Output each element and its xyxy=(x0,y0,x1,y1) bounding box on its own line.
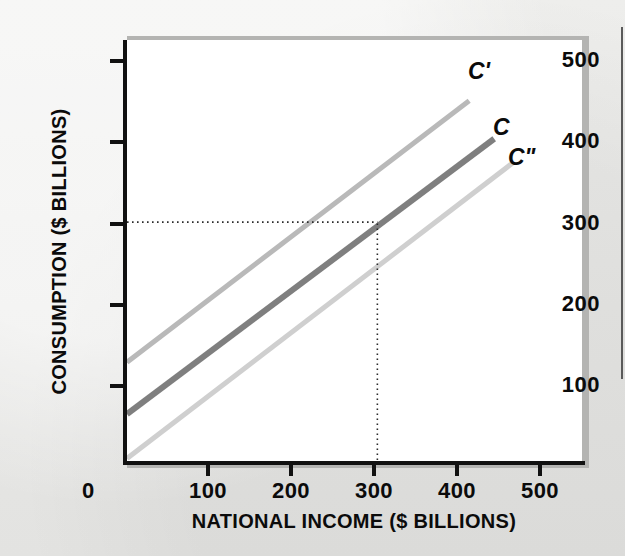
y-tick-mark xyxy=(110,140,123,144)
y-tick-label-100: 100 xyxy=(492,372,600,398)
y-tick-label-300: 300 xyxy=(492,210,600,236)
y-tick-mark xyxy=(110,384,123,388)
curve-label-c-prime: C' xyxy=(468,58,490,85)
plot-svg xyxy=(127,40,582,465)
plot-area xyxy=(123,40,582,465)
x-tick-label-200: 200 xyxy=(251,478,331,504)
x-tick-mark xyxy=(538,463,542,476)
x-tick-label-100: 100 xyxy=(168,478,248,504)
x-tick-label-500: 500 xyxy=(500,478,580,504)
x-axis-title: NATIONAL INCOME ($ BILLIONS) xyxy=(123,510,585,533)
x-tick-mark xyxy=(289,463,293,476)
curve-label-c: C xyxy=(493,114,510,141)
curve-lines-group xyxy=(127,101,513,459)
y-tick-label-500: 500 xyxy=(492,47,600,73)
x-axis-spine xyxy=(123,461,585,465)
curve-line xyxy=(127,163,513,458)
x-tick-label-400: 400 xyxy=(417,478,497,504)
y-tick-mark xyxy=(110,303,123,307)
y-tick-label-200: 200 xyxy=(492,291,600,317)
y-axis-title: CONSUMPTION ($ BILLIONS) xyxy=(48,52,71,452)
curve-line xyxy=(127,139,494,414)
y-tick-mark xyxy=(110,59,123,63)
x-tick-mark xyxy=(206,463,210,476)
page-gutter-rule xyxy=(621,27,623,379)
curve-line xyxy=(127,101,469,362)
x-tick-label-300: 300 xyxy=(334,478,414,504)
consumption-function-chart: 500 400 300 200 100 0 100 200 300 400 50… xyxy=(0,0,600,556)
x-tick-mark xyxy=(455,463,459,476)
y-tick-mark xyxy=(110,222,123,226)
origin-label-zero: 0 xyxy=(82,478,94,504)
x-tick-mark xyxy=(372,463,376,476)
curve-label-c-double-prime: C" xyxy=(508,144,536,171)
